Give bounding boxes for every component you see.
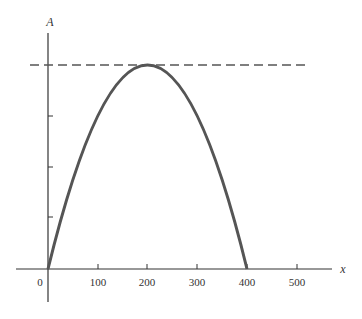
- y-ticks: [48, 116, 53, 217]
- x-tick-label-400: 400: [239, 276, 256, 288]
- y-axis-label: A: [45, 15, 54, 29]
- parabola-curve: [48, 65, 247, 269]
- x-tick-label-500: 500: [289, 276, 306, 288]
- x-tick-label-300: 300: [189, 276, 206, 288]
- x-tick-label-0: 0: [37, 276, 43, 288]
- chart: 0 100 200 300 400 500 x A: [0, 0, 362, 319]
- x-axis-label: x: [339, 262, 346, 276]
- x-tick-label-200: 200: [139, 276, 156, 288]
- x-ticks: [98, 264, 297, 269]
- x-tick-label-100: 100: [90, 276, 107, 288]
